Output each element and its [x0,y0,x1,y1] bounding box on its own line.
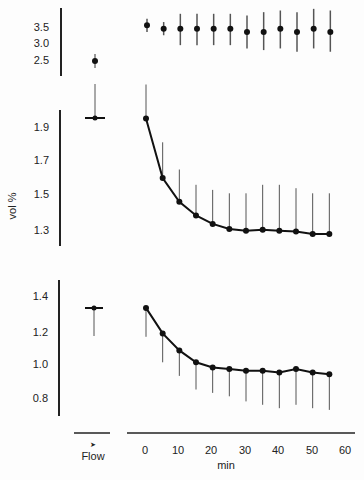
data-point [243,368,249,374]
middle-y-tick: 1.9 [34,121,49,133]
middle-y-tick: 1.3 [34,224,49,236]
bottom-series [143,305,332,410]
data-point [143,116,149,122]
data-point [310,370,316,376]
data-point [144,22,150,28]
data-point [176,199,182,205]
data-point [310,231,316,237]
middle-y-tick: 1.5 [34,188,49,200]
x-tick: 50 [306,444,318,456]
data-point [293,229,299,235]
top-y-tick: 3.5 [34,21,49,33]
data-point [277,26,283,32]
data-point [193,359,199,365]
x-tick: 60 [339,444,351,456]
data-point [177,26,183,32]
series-line [146,119,329,235]
data-point [160,330,166,336]
y-axis-label: vol % [6,192,18,219]
bottom-y-tick: 1.0 [33,358,48,370]
flow-bottom-marker [85,306,103,337]
x-tick: 30 [239,444,251,456]
top-y-tick: 2.5 [34,54,49,66]
x-tick: 10 [172,444,184,456]
data-point [326,231,332,237]
x-tick: 0 [142,444,148,456]
data-point [326,371,332,377]
data-point [243,228,249,234]
data-point [226,226,232,232]
data-point [210,364,216,370]
x-axis-label: min [217,459,235,471]
chart-svg: 3.5 3.0 2.5 1.9 1.7 1.5 1.3 1.4 1.2 1.0 … [0,0,364,480]
middle-series [143,85,332,238]
chart-figure: 3.5 3.0 2.5 1.9 1.7 1.5 1.3 1.4 1.2 1.0 … [0,0,364,480]
data-point [176,347,182,353]
data-point [227,26,233,32]
data-point [276,228,282,234]
bottom-y-tick: 1.2 [33,326,48,338]
data-point [161,26,167,32]
flow-middle-marker [85,84,105,121]
x-tick: 20 [205,444,217,456]
flow-top-marker [92,54,98,68]
data-point [311,26,317,32]
data-point [260,227,266,233]
data-point [260,368,266,374]
data-point [194,26,200,32]
data-point [211,26,217,32]
series-line [146,308,329,374]
data-point [244,29,250,35]
data-point [261,29,267,35]
data-point [293,366,299,372]
data-point [226,366,232,372]
data-point [210,221,216,227]
flow-arrow-icon: ➤ [90,441,96,448]
data-point [193,212,199,218]
middle-y-tick: 1.7 [34,154,49,166]
x-tick: 40 [272,444,284,456]
top-y-tick: 3.0 [34,37,49,49]
bottom-y-tick: 1.4 [33,290,48,302]
top-series [144,9,333,52]
data-point [327,29,333,35]
bottom-y-tick: 0.8 [33,392,48,404]
data-point [294,29,300,35]
data-point [160,175,166,181]
flow-label: Flow [81,450,104,462]
data-point [276,370,282,376]
data-point [143,305,149,311]
